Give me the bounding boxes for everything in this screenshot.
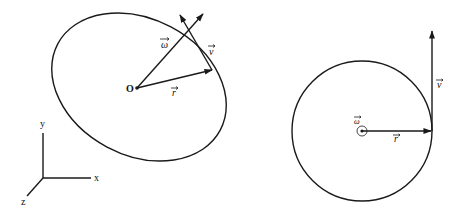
origin-label: O <box>126 83 134 94</box>
r-vector-label: r <box>172 87 176 98</box>
rotation-diagram: O r ω v y x z <box>0 0 458 210</box>
r-vector-arrow <box>137 70 212 88</box>
v-vector-label-group: v <box>208 45 215 58</box>
right-diagram: ω r v <box>292 31 443 201</box>
right-v-vector-label: v <box>437 79 442 90</box>
omega-vector-label: ω <box>161 39 168 50</box>
omega-vector-label-group: ω <box>160 38 169 51</box>
right-v-label-group: v <box>436 79 443 90</box>
y-axis-label: y <box>40 118 45 129</box>
elliptical-orbit <box>26 0 252 190</box>
right-omega-label-group: ω <box>354 116 361 126</box>
omega-vector-arrow <box>137 14 203 88</box>
coordinate-axes: y x z <box>21 118 99 207</box>
v-vector-arrow <box>180 15 212 70</box>
r-vector-label-group: r <box>171 87 178 99</box>
x-axis-label: x <box>94 172 99 183</box>
right-r-label-group: r <box>393 133 400 144</box>
right-omega-label: ω <box>354 117 360 126</box>
z-axis <box>27 178 43 196</box>
left-diagram: O r ω v y x z <box>21 0 252 207</box>
z-axis-label: z <box>21 196 26 207</box>
